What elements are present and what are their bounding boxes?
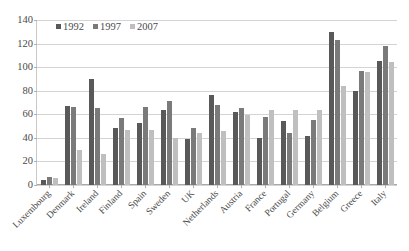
y-axis-tick-label: 140 bbox=[17, 15, 33, 26]
legend-swatch-icon bbox=[93, 24, 98, 29]
chart-title bbox=[0, 0, 409, 5]
x-axis-tick-label-text: Italy bbox=[370, 189, 389, 208]
bar-2007-austria bbox=[245, 115, 250, 185]
bar-chart: 020406080100120140 199219972007 Luxembou… bbox=[0, 0, 409, 251]
y-axis-tick-label: 60 bbox=[23, 109, 34, 120]
bar-groups bbox=[37, 20, 397, 185]
bar-group bbox=[253, 20, 277, 185]
bar-2007-uk bbox=[197, 133, 202, 185]
x-label-cell: Netherlands bbox=[204, 187, 228, 251]
legend-item-2007[interactable]: 2007 bbox=[130, 21, 158, 32]
y-axis-tick-label: 40 bbox=[23, 133, 34, 144]
bar-1992-sweden bbox=[161, 110, 166, 185]
bar-group bbox=[133, 20, 157, 185]
bar-1992-belgium bbox=[329, 32, 334, 185]
legend-label: 1992 bbox=[63, 21, 84, 32]
bar-group bbox=[37, 20, 61, 185]
legend-item-1997[interactable]: 1997 bbox=[93, 21, 121, 32]
legend-item-1992[interactable]: 1992 bbox=[56, 21, 84, 32]
x-label-cell: Sweden bbox=[156, 187, 180, 251]
x-label-cell: Italy bbox=[372, 187, 396, 251]
x-label-cell: Belgium bbox=[324, 187, 348, 251]
y-axis-tick-label: 100 bbox=[17, 62, 33, 73]
bar-1992-netherlands bbox=[209, 95, 214, 185]
x-label-cell: Spain bbox=[132, 187, 156, 251]
legend-label: 1997 bbox=[100, 21, 121, 32]
x-label-cell: Finland bbox=[108, 187, 132, 251]
legend-swatch-icon bbox=[56, 24, 61, 29]
x-label-cell: Luxembourg bbox=[36, 187, 60, 251]
legend-swatch-icon bbox=[130, 24, 135, 29]
x-label-cell: Denmark bbox=[60, 187, 84, 251]
bar-group bbox=[373, 20, 397, 185]
x-label-cell: France bbox=[252, 187, 276, 251]
bar-1997-netherlands bbox=[215, 105, 220, 185]
y-axis-tick-label: 0 bbox=[28, 180, 33, 191]
bar-group bbox=[325, 20, 349, 185]
x-axis-tick-label-text: UK bbox=[180, 189, 196, 205]
bar-1992-italy bbox=[377, 61, 382, 185]
y-tick-mark bbox=[34, 185, 37, 186]
bar-1997-portugal bbox=[287, 133, 292, 185]
x-label-cell: Austria bbox=[228, 187, 252, 251]
bar-1997-finland bbox=[119, 118, 124, 185]
bar-group bbox=[157, 20, 181, 185]
y-axis-tick-label: 80 bbox=[23, 85, 34, 96]
y-axis-tick-label: 120 bbox=[17, 38, 33, 49]
bar-1992-luxembourg bbox=[41, 180, 46, 185]
x-axis-labels: LuxembourgDenmarkIrelandFinlandSpainSwed… bbox=[36, 187, 396, 251]
bar-group bbox=[85, 20, 109, 185]
x-label-cell: Ireland bbox=[84, 187, 108, 251]
legend-label: 2007 bbox=[137, 21, 158, 32]
bar-group bbox=[109, 20, 133, 185]
bar-2007-germany bbox=[317, 110, 322, 185]
x-label-cell: Germany bbox=[300, 187, 324, 251]
bar-1997-italy bbox=[383, 46, 388, 185]
bar-group bbox=[277, 20, 301, 185]
chart-legend: 199219972007 bbox=[56, 21, 158, 32]
bar-group bbox=[349, 20, 373, 185]
bar-group bbox=[181, 20, 205, 185]
bar-2007-greece bbox=[365, 72, 370, 185]
bar-2007-italy bbox=[389, 62, 394, 185]
bar-group bbox=[301, 20, 325, 185]
bar-2007-france bbox=[269, 110, 274, 185]
plot-area: 020406080100120140 bbox=[36, 20, 397, 185]
y-axis-tick-label: 20 bbox=[23, 156, 34, 167]
x-label-cell: Greece bbox=[348, 187, 372, 251]
bar-2007-portugal bbox=[293, 110, 298, 185]
bar-1997-sweden bbox=[167, 101, 172, 185]
bar-group bbox=[205, 20, 229, 185]
x-label-cell: Portugal bbox=[276, 187, 300, 251]
